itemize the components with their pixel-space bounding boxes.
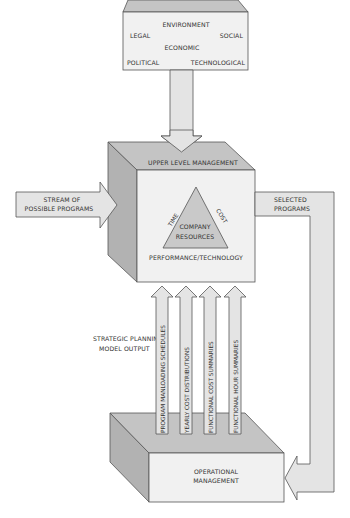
factor-political: POLITICAL: [127, 59, 160, 66]
model-output-arrows: PROGRAM MANLOADING SCHEDULES YEARLY COST…: [151, 286, 246, 434]
operational-line2: MANAGEMENT: [193, 477, 239, 484]
report-label-functional-cost: FUNCTIONAL COST SUMMARIES: [208, 341, 214, 433]
upper-management-box: UPPER LEVEL MANAGEMENT TIME COST COMPANY…: [108, 130, 255, 282]
selected-programs-line1: SELECTED: [274, 196, 307, 203]
environment-box-top: [123, 0, 248, 12]
upper-management-title: UPPER LEVEL MANAGEMENT: [148, 159, 238, 166]
operational-line1: OPERATIONAL: [194, 468, 239, 475]
report-label-yearly-cost: YEARLY COST DISTRIBUTIONS: [184, 347, 190, 434]
possible-programs-line1: STREAM OF: [44, 196, 81, 203]
factor-legal: LEGAL: [130, 32, 151, 39]
factor-technological: TECHNOLOGICAL: [190, 59, 246, 66]
possible-programs-line2: POSSIBLE PROGRAMS: [25, 205, 94, 212]
strategic-output-line1: STRATEGIC PLANNING: [93, 335, 163, 342]
environment-box: ENVIRONMENT LEGAL SOCIAL ECONOMIC POLITI…: [123, 0, 248, 70]
strategic-planning-diagram: ENVIRONMENT LEGAL SOCIAL ECONOMIC POLITI…: [0, 0, 350, 518]
report-label-functional-hour: FUNCTIONAL HOUR SUMMARIES: [233, 340, 239, 433]
selected-programs-line2: PROGRAMS: [274, 205, 310, 212]
environment-title: ENVIRONMENT: [162, 21, 209, 28]
strategic-output-line2: MODEL OUTPUT: [99, 345, 150, 352]
triangle-center-line1: COMPANY: [179, 223, 210, 230]
triangle-center-line2: RESOURCES: [176, 233, 215, 240]
triangle-label-performance: PERFORMANCE/TECHNOLOGY: [149, 254, 243, 261]
factor-economic: ECONOMIC: [165, 44, 200, 51]
factor-social: SOCIAL: [220, 32, 244, 39]
report-label-manloading: PROGRAM MANLOADING SCHEDULES: [160, 325, 166, 433]
